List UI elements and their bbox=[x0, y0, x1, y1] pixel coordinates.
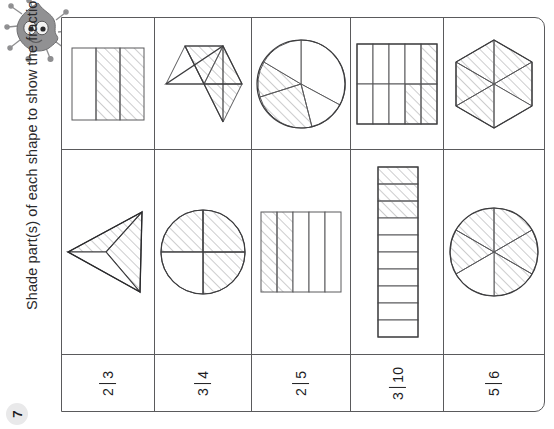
fraction-denominator: 4 bbox=[195, 366, 211, 382]
fraction-3-10: 3 10 bbox=[389, 363, 406, 404]
fraction-cell-4: 3 10 bbox=[351, 355, 443, 411]
fraction-denominator: 3 bbox=[100, 366, 116, 382]
shape-cell-rectangle-thirds[interactable] bbox=[62, 18, 154, 150]
fraction-3-4: 3 4 bbox=[195, 366, 212, 399]
shape-cell-triangle-quarters[interactable] bbox=[155, 18, 251, 150]
fraction-numerator: 2 bbox=[100, 384, 116, 400]
fraction-cell-3: 2 5 bbox=[252, 355, 350, 411]
shape-cell-hexagon-sixths[interactable] bbox=[444, 18, 544, 150]
fraction-numerator: 3 bbox=[389, 388, 405, 404]
fraction-numerator: 3 bbox=[195, 384, 211, 400]
fraction-2-3: 2 3 bbox=[100, 366, 117, 399]
fraction-column-1: 2 3 bbox=[62, 18, 155, 411]
fraction-denominator: 6 bbox=[486, 366, 502, 382]
fraction-numerator: 5 bbox=[486, 384, 502, 400]
fraction-denominator: 5 bbox=[293, 366, 309, 382]
fraction-column-5: 5 6 bbox=[444, 18, 544, 411]
fraction-5-6: 5 6 bbox=[486, 366, 503, 399]
shape-cell-grid-tenths[interactable] bbox=[351, 18, 443, 150]
fraction-cell-2: 3 4 bbox=[155, 355, 251, 411]
question-number-badge: 7 bbox=[6, 403, 28, 425]
shape-cell-circle-quarters[interactable] bbox=[155, 150, 251, 355]
fraction-cell-1: 2 3 bbox=[62, 355, 154, 411]
fraction-2-5: 2 5 bbox=[293, 366, 310, 399]
instruction-text: Shade part(s) of each shape to show the … bbox=[24, 10, 40, 310]
fraction-denominator: 10 bbox=[389, 363, 405, 387]
shape-cell-triangle-thirds[interactable] bbox=[62, 150, 154, 355]
shape-cell-bar-tenths[interactable] bbox=[351, 150, 443, 355]
fraction-numerator: 2 bbox=[293, 384, 309, 400]
shape-cell-circle-sixths[interactable] bbox=[444, 150, 544, 355]
fraction-cell-5: 5 6 bbox=[444, 355, 544, 411]
fraction-column-2: 3 4 bbox=[155, 18, 252, 411]
worksheet-page: 7 Shade part(s) of each shape to show th… bbox=[0, 0, 554, 429]
shape-cell-rectangle-fifths[interactable] bbox=[252, 150, 350, 355]
shape-cell-circle-fifths[interactable] bbox=[252, 18, 350, 150]
fraction-table: 2 3 bbox=[61, 17, 545, 412]
fraction-column-3: 2 5 bbox=[252, 18, 351, 411]
fraction-column-4: 3 10 bbox=[351, 18, 444, 411]
